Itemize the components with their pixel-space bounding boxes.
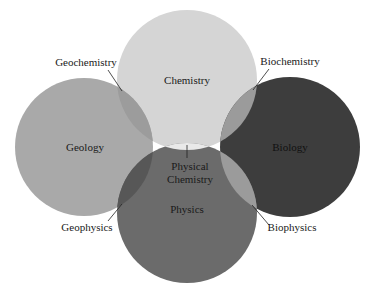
label-chemistry: Chemistry xyxy=(164,74,210,86)
venn-svg: Chemistry Geology Biology Physics Geoche… xyxy=(0,0,380,296)
venn-diagram: Chemistry Geology Biology Physics Geoche… xyxy=(0,0,380,296)
label-physics: Physics xyxy=(170,203,204,215)
label-physical-chemistry-line2: Chemistry xyxy=(167,173,213,185)
label-geochemistry: Geochemistry xyxy=(55,56,117,68)
label-physical-chemistry-line1: Physical xyxy=(171,160,208,172)
label-geophysics: Geophysics xyxy=(61,221,112,233)
label-biophysics: Biophysics xyxy=(268,221,317,233)
label-biochemistry: Biochemistry xyxy=(260,55,320,67)
label-biology: Biology xyxy=(272,141,308,153)
label-geology: Geology xyxy=(66,141,104,153)
